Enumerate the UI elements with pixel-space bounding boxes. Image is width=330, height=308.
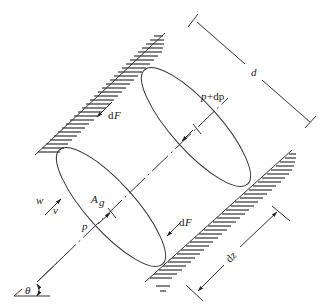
angle-theta [14, 284, 50, 296]
lower-wall [145, 150, 296, 291]
pressure-arrow-p-plus-dp [182, 124, 201, 141]
label-d: d [251, 66, 257, 78]
lower-wall-hatching [150, 154, 296, 291]
label-dF-bottom: d F [179, 216, 192, 228]
svg-text:p: p [200, 90, 207, 102]
svg-text:F: F [113, 109, 121, 121]
svg-text:g: g [99, 196, 105, 208]
label-theta: θ [25, 284, 31, 296]
svg-text:A: A [90, 193, 98, 205]
control-volume-diagram: d p +dp d F d F A g w v p d z θ [0, 0, 330, 308]
label-v: v [53, 204, 58, 216]
inlet-cross-section [42, 134, 181, 281]
pressure-arrow-p [98, 208, 116, 224]
label-A-g: A g [90, 193, 105, 208]
dz-dimension [186, 206, 290, 301]
label-w: w [36, 194, 44, 206]
label-dz: d z [223, 249, 239, 265]
svg-text:+dp: +dp [207, 90, 225, 102]
label-dF-top: d F [108, 109, 121, 121]
label-p-plus-dp: p +dp [200, 90, 225, 102]
label-p: p [81, 220, 88, 232]
svg-text:F: F [184, 216, 192, 228]
